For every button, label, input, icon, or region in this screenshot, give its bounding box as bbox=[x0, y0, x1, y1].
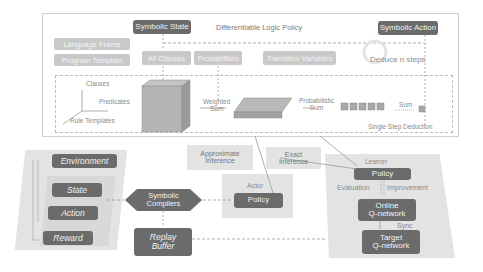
environment-box: Environment bbox=[52, 154, 117, 168]
sync-label: Sync bbox=[397, 222, 413, 229]
evaluation-label: Evaluation bbox=[337, 184, 370, 191]
online-q-network-box: Online Q-network bbox=[358, 199, 416, 221]
learner-title: Learner bbox=[365, 159, 387, 166]
panel-title: Differentiable Logic Policy bbox=[216, 23, 302, 32]
sum-label: Sum bbox=[399, 102, 412, 109]
program-template-box: Program Template bbox=[54, 54, 130, 66]
approximate-inference-line2: Inference bbox=[191, 157, 249, 164]
actor-policy-box: Policy bbox=[234, 193, 283, 208]
clause-tensor-3d bbox=[142, 80, 190, 132]
all-clauses-box: All Clauses bbox=[142, 51, 191, 65]
sum-result-cube bbox=[419, 106, 425, 112]
approximate-inference-label: Approximate Inference bbox=[191, 150, 249, 165]
axis-clauses-label: Clauses bbox=[86, 81, 109, 88]
reward-box: Reward bbox=[43, 231, 93, 245]
symbolic-action-box: Symbolic Action bbox=[378, 21, 438, 35]
language-frame-box: Language Frame bbox=[54, 38, 130, 50]
weighted-sum-line2: Sum bbox=[203, 106, 230, 113]
probabilities-box: Probabilities bbox=[194, 51, 242, 65]
symbolic-compilers-label: Symbolic Compilers bbox=[137, 192, 190, 208]
learner-policy-box: Policy bbox=[354, 168, 411, 180]
transition-variables-box: Transition Variables bbox=[263, 51, 336, 65]
approximate-inference-line1: Approximate bbox=[191, 150, 249, 157]
replay-buffer-box: Replay Buffer bbox=[134, 228, 192, 256]
axis-rule-templates-label: Rule Templates bbox=[70, 118, 115, 125]
weighted-sum-tensor bbox=[234, 98, 292, 118]
actor-title: Actor bbox=[247, 182, 263, 189]
improvement-label: Improvement bbox=[387, 184, 428, 191]
action-box: Action bbox=[48, 206, 98, 220]
single-step-deduction-label: Single Step Deduction bbox=[368, 124, 432, 131]
axis-predicates-label: Predicates bbox=[99, 99, 130, 106]
target-q-line2: Q-network bbox=[373, 242, 410, 250]
symbolic-state-box: Symbolic State bbox=[133, 20, 191, 34]
exact-inference-line2: Inference bbox=[268, 158, 319, 165]
exact-inference-line1: Exact bbox=[268, 151, 319, 158]
replay-buffer-line2: Buffer bbox=[152, 242, 175, 251]
probabilistic-sum-line2: Sum bbox=[299, 105, 334, 112]
online-q-line2: Q-network bbox=[369, 210, 406, 218]
probabilistic-sum-vector bbox=[341, 103, 384, 110]
weighted-sum-label: Weighted Sum bbox=[203, 99, 230, 113]
state-box: State bbox=[52, 183, 102, 197]
deduce-n-steps-label: Deduce n steps bbox=[370, 55, 426, 64]
exact-inference-label: Exact Inference bbox=[268, 151, 319, 166]
target-q-network-box: Target Q-network bbox=[362, 230, 420, 254]
symbolic-compilers-line2: Compilers bbox=[137, 200, 190, 208]
probabilistic-sum-label: Probabilistic Sum bbox=[299, 98, 334, 112]
